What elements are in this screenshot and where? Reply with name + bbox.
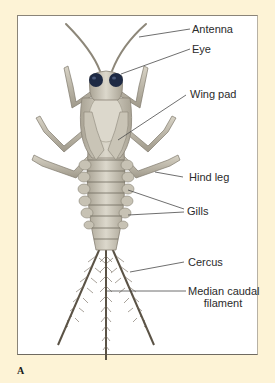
label-wing-pad: Wing pad: [190, 88, 236, 100]
eye-right: [109, 73, 123, 87]
leader-cercus: [130, 262, 184, 272]
label-hind-leg: Hind leg: [189, 171, 229, 183]
leader-hind-leg: [155, 172, 183, 177]
label-median-caudal-line2: filament: [188, 297, 258, 309]
label-gills: Gills: [187, 205, 208, 217]
eye-left: [89, 73, 103, 87]
head: [89, 71, 123, 100]
leader-antenna: [139, 29, 190, 37]
abdomen: [78, 150, 134, 250]
antennae: [66, 24, 146, 71]
leader-gills-upper: [128, 190, 184, 209]
label-median-caudal-filament: Median caudal filament: [188, 285, 258, 309]
tail-filaments: [58, 248, 154, 360]
label-eye: Eye: [192, 43, 211, 55]
label-cercus: Cercus: [188, 256, 223, 268]
leader-gills-lower: [128, 212, 184, 215]
label-antenna: Antenna: [192, 23, 233, 35]
thorax: [80, 94, 131, 160]
mayfly-nymph-illustration: [0, 0, 275, 383]
panel-letter: A: [17, 365, 24, 376]
label-median-caudal-line1: Median caudal: [188, 285, 258, 297]
leader-eye: [121, 49, 190, 74]
